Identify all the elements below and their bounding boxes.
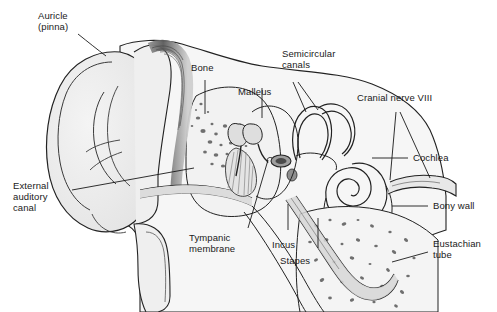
leader-auricle: [78, 34, 106, 56]
label-cranial-nerve-viii: Cranial nerve VIII: [357, 92, 432, 103]
label-auricle: Auricle (pinna): [38, 10, 68, 32]
label-bone: Bone: [191, 62, 214, 73]
label-cochlea: Cochlea: [413, 152, 449, 163]
label-incus: Incus: [272, 239, 295, 250]
label-eustachian-tube: Eustachian tube: [433, 238, 481, 260]
label-bony-wall: Bony wall: [433, 200, 475, 211]
label-external-auditory-canal: External auditory canal: [13, 180, 49, 213]
label-malleus: Malleus: [238, 86, 271, 97]
label-stapes: Stapes: [280, 255, 310, 266]
label-semicircular-canals: Semicircular canals: [282, 48, 335, 70]
label-tympanic-membrane: Tympanic membrane: [189, 232, 235, 254]
ear-anatomy-figure: Auricle (pinna) Bone Malleus Semicircula…: [0, 0, 497, 312]
